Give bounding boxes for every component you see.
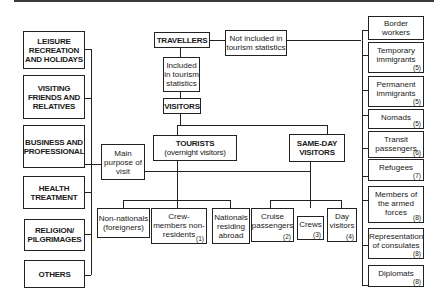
included-box: Included in tourism statistics <box>163 57 200 92</box>
connector <box>341 200 342 208</box>
type-label: Day visitors <box>328 212 356 230</box>
connector <box>310 193 311 208</box>
purpose-bracket <box>91 49 92 275</box>
connector <box>85 49 91 50</box>
same-day-label: SAME-DAY VISITORS <box>290 139 344 157</box>
footnote-ref: (2) <box>283 233 291 240</box>
footnote-ref: (5) <box>413 64 421 71</box>
footnote-ref: (5) <box>413 120 421 127</box>
same-day-box: SAME-DAY VISITORS <box>289 134 345 162</box>
connector <box>85 234 91 235</box>
excluded-label: Refugees <box>379 163 413 172</box>
not-included-label: Not included in tourism statistics <box>226 34 286 52</box>
connector <box>230 200 231 208</box>
connector <box>177 125 178 135</box>
purpose-health: HEALTH TREATMENT <box>23 176 85 209</box>
purpose-visiting-friends: VISITING FRIENDS AND RELATIVES <box>23 75 85 119</box>
purpose-others: OTHERS <box>24 260 85 288</box>
connector <box>145 171 310 172</box>
excluded-label: Border workers <box>369 19 423 37</box>
visitors-box: VISITORS <box>163 98 201 114</box>
connector <box>177 161 178 200</box>
footnote-ref: (8) <box>413 278 421 285</box>
connector <box>91 164 101 165</box>
type-label: Cruise passengers <box>252 212 293 230</box>
excluded-label: Members of the armed forces <box>369 190 423 217</box>
connector <box>270 200 271 208</box>
visitors-label: VISITORS <box>164 102 200 111</box>
excluded-permanent-immigrants: Permanent immigrants(5) <box>368 76 424 107</box>
footnote-ref: (6) <box>413 149 421 156</box>
main-purpose-box: Main purpose of visit <box>101 144 145 180</box>
tourist-type-non-nationals: Non-nationals (foreigners) <box>97 208 150 238</box>
tourists-sublabel: (overnight visitors) <box>164 148 225 157</box>
excluded-label: Permanent immigrants <box>369 80 423 98</box>
purpose-business: BUSINESS AND PROFESSIONAL <box>23 125 85 168</box>
travellers-box: TRAVELLERS <box>154 32 210 48</box>
tourist-type-crew-members: Crew-members non-residents(1) <box>151 208 207 244</box>
excluded-nomads: Nomads(5) <box>368 109 424 129</box>
purpose-label: OTHERS <box>38 270 70 279</box>
same-day-type-day-visitors: Day visitors(4) <box>327 208 357 242</box>
purpose-label: RELIGION/ PILGRIMAGES <box>25 226 84 244</box>
footnote-ref: (4) <box>346 233 354 240</box>
tourist-type-nationals-abroad: Nationals residing abroad <box>212 208 250 244</box>
excluded-label: Representation of consulates <box>369 232 423 250</box>
footnote-ref: (8) <box>413 214 421 221</box>
connector <box>85 275 91 276</box>
tourists-box: TOURISTS (overnight visitors) <box>153 135 237 161</box>
excluded-transit-passengers: Transit passengers(6) <box>368 131 424 158</box>
connector <box>270 200 341 201</box>
travellers-label: TRAVELLERS <box>157 36 208 45</box>
tourists-label: TOURISTS <box>176 139 215 148</box>
excluded-label: Temporary immigrants <box>369 46 423 64</box>
excluded-label: Nomads <box>381 113 411 122</box>
excluded-refugees: Refugees(7) <box>368 159 424 181</box>
type-label: Nationals residing abroad <box>213 213 249 240</box>
excluded-armed-forces: Members of the armed forces(8) <box>368 186 424 223</box>
excluded-border-workers: Border workers <box>368 16 424 40</box>
purpose-label: LEISURE RECREATION AND HOLIDAYS <box>24 37 84 64</box>
type-label: Non-nationals (foreigners) <box>98 214 149 232</box>
connector <box>177 200 178 208</box>
connector <box>123 200 124 208</box>
main-purpose-label: Main purpose of visit <box>102 149 144 176</box>
footnote-ref: (5) <box>413 98 421 105</box>
excluded-consulates: Representation of consulates(8) <box>368 228 424 259</box>
same-day-type-crews: Crews(3) <box>297 216 324 240</box>
connector <box>180 114 181 125</box>
footnote-ref: (1) <box>196 235 204 242</box>
purpose-leisure: LEISURE RECREATION AND HOLIDAYS <box>23 31 85 69</box>
excluded-bracket <box>362 30 363 285</box>
excluded-label: Diplomats <box>378 269 414 278</box>
not-included-box: Not included in tourism statistics <box>225 30 287 56</box>
purpose-label: VISITING FRIENDS AND RELATIVES <box>24 84 84 111</box>
excluded-diplomats: Diplomats(8) <box>368 265 424 287</box>
footnote-ref: (3) <box>313 231 321 238</box>
top-rule <box>14 0 434 2</box>
purpose-label: HEALTH TREATMENT <box>24 184 84 202</box>
connector <box>180 48 181 57</box>
connector <box>177 125 327 126</box>
purpose-label: BUSINESS AND PROFESSIONAL <box>24 138 85 156</box>
same-day-type-cruise: Cruise passengers(2) <box>251 208 294 242</box>
excluded-temporary-immigrants: Temporary immigrants(5) <box>368 42 424 73</box>
purpose-religion: RELIGION/ PILGRIMAGES <box>24 219 85 251</box>
connector <box>287 40 361 41</box>
included-label: Included in tourism statistics <box>164 61 199 88</box>
type-label: Crews <box>299 220 322 229</box>
connector <box>85 98 91 99</box>
footnote-ref: (7) <box>413 172 421 179</box>
connector <box>85 192 91 193</box>
footnote-ref: (8) <box>413 250 421 257</box>
connector <box>210 40 225 41</box>
